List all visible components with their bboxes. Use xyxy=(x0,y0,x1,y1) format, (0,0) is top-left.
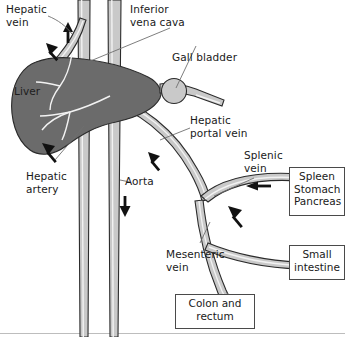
label-splenic-vein: Splenic vein xyxy=(244,149,283,174)
hepatic-portal-system-figure: .vessel { fill: #c9c9c9; stroke: #2b2b2b… xyxy=(0,0,345,337)
label-hepatic-portal-vein: Hepatic portal vein xyxy=(190,114,248,139)
aorta-flow-arrow xyxy=(120,196,131,217)
label-liver: Liver xyxy=(14,85,40,98)
mesenteric-vein-flow-arrow xyxy=(228,206,243,228)
portal-vein-mid-flow-arrow xyxy=(148,152,160,171)
label-gall-bladder: Gall bladder xyxy=(172,51,237,64)
box-small-intestine: Small intestine xyxy=(289,245,345,280)
label-hepatic-artery: Hepatic artery xyxy=(26,170,67,195)
inferior-vena-cava-vessel xyxy=(78,0,90,337)
leader-inferior-vena-cava xyxy=(88,28,170,62)
label-inferior-vena-cava: Inferior vena cava xyxy=(130,3,185,28)
box-colon-and-rectum: Colon and rectum xyxy=(175,294,255,329)
label-hepatic-vein: Hepatic vein xyxy=(6,3,47,28)
label-aorta: Aorta xyxy=(125,175,154,188)
box-spleen-stomach-pancreas: Spleen Stomach Pancreas xyxy=(289,167,345,216)
label-mesenteric-vein: Mesenteric vein xyxy=(166,248,225,273)
gall-bladder-organ xyxy=(160,79,224,107)
